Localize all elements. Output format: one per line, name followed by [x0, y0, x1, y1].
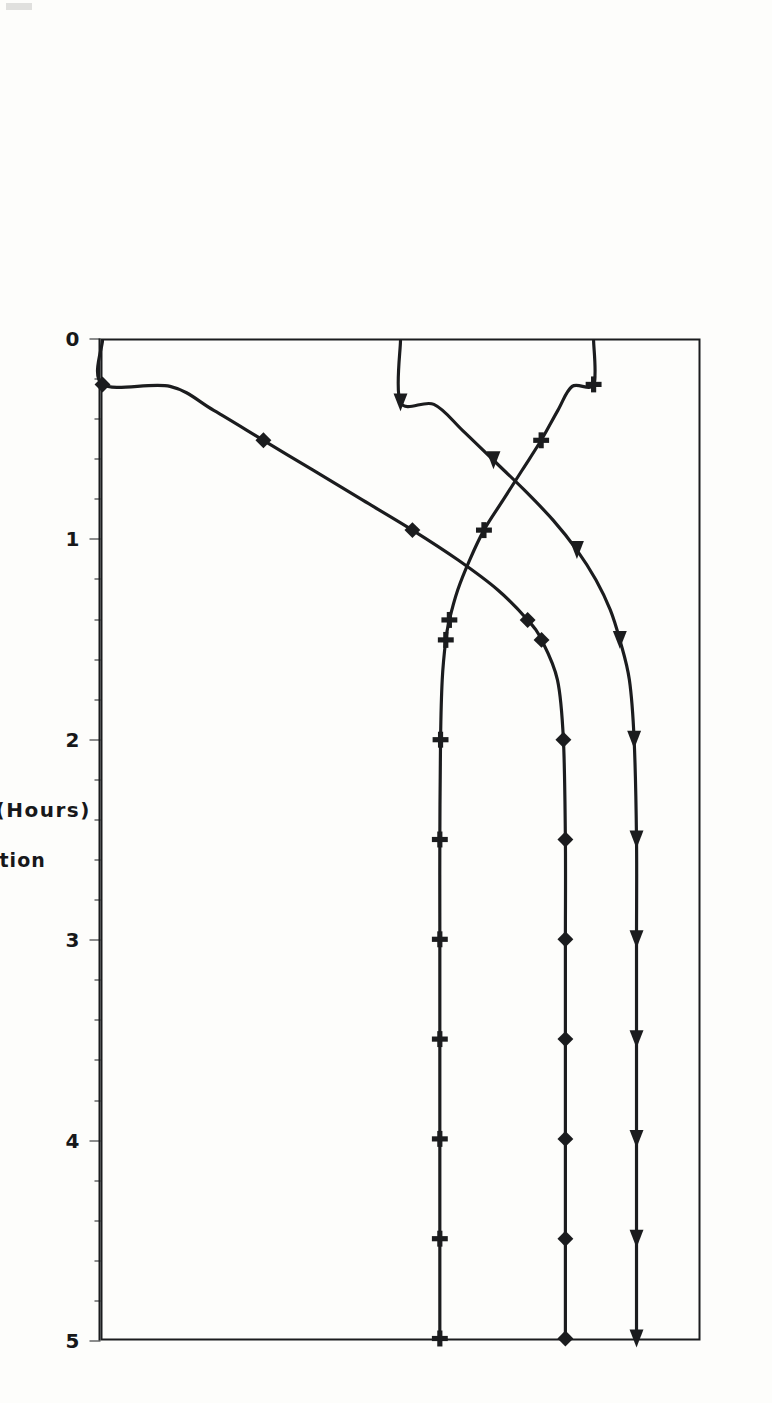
plus-marker — [431, 1330, 447, 1346]
time-tick-minor — [94, 619, 100, 620]
time-axis-title: Time (Hours) — [0, 797, 90, 821]
plus-marker — [585, 376, 601, 392]
time-tick-label: 1 — [65, 526, 79, 550]
time-tick-minor — [94, 1260, 100, 1261]
diamond-marker — [555, 731, 571, 747]
time-tick-minor — [94, 859, 100, 860]
time-tick-minor — [94, 659, 100, 660]
time-axis-line — [98, 338, 100, 1340]
time-tick-major — [89, 739, 100, 740]
time-tick-minor — [94, 1019, 100, 1020]
plus-marker — [441, 611, 457, 627]
plus-marker — [431, 831, 447, 847]
diamond-marker — [404, 522, 420, 538]
plus-marker — [431, 931, 447, 947]
diamond-marker — [557, 1230, 573, 1246]
time-tick-major — [89, 1340, 100, 1341]
time-tick-label: 3 — [65, 927, 79, 951]
triangle-marker — [627, 730, 641, 748]
scan-smudge — [6, 3, 32, 10]
plot-area — [100, 338, 700, 1340]
diamond-marker — [557, 931, 573, 947]
time-tick-minor — [94, 418, 100, 419]
time-tick-major — [89, 538, 100, 539]
diamond-marker — [557, 1130, 573, 1146]
plus-marker — [432, 731, 448, 747]
time-tick-major — [89, 1140, 100, 1141]
time-tick-minor — [94, 979, 100, 980]
plus-marker — [431, 1031, 447, 1047]
time-tick-minor — [94, 1180, 100, 1181]
diamond-marker — [533, 631, 549, 647]
time-tick-label: 4 — [65, 1128, 79, 1152]
time-tick-minor — [94, 699, 100, 700]
time-tick-minor — [94, 498, 100, 499]
diamond-marker — [557, 1330, 573, 1346]
time-tick-minor — [94, 458, 100, 459]
time-tick-label: 2 — [65, 727, 79, 751]
curves-svg — [102, 340, 698, 1338]
triangle-marker — [393, 393, 407, 411]
diamond-marker — [255, 432, 271, 448]
plus-marker — [431, 1130, 447, 1146]
time-tick-label: 5 — [65, 1328, 79, 1352]
time-tick-minor — [94, 1300, 100, 1301]
plus-marker — [437, 631, 453, 647]
triangle-marker — [629, 1030, 643, 1048]
triangle-marker — [629, 830, 643, 848]
triangle-marker — [629, 930, 643, 948]
triangle-marker — [629, 1129, 643, 1147]
time-tick-minor — [94, 1059, 100, 1060]
time-tick-minor — [94, 1220, 100, 1221]
series-line-oxylene — [97, 340, 565, 1338]
time-tick-minor — [94, 1100, 100, 1101]
time-tick-minor — [94, 779, 100, 780]
time-tick-label: 0 — [65, 326, 79, 350]
plus-marker — [431, 1230, 447, 1246]
time-tick-minor — [94, 378, 100, 379]
triangle-marker — [612, 630, 626, 648]
time-tick-minor — [94, 819, 100, 820]
time-tick-minor — [94, 899, 100, 900]
time-tick-major — [89, 338, 100, 339]
rotated-figure: Time (Hours) 960955950945940935X10-3+BEN… — [0, 0, 772, 1403]
benzene-legend: +BENZENE Fraction — [0, 847, 45, 872]
triangle-marker — [629, 1329, 643, 1347]
triangle-marker — [629, 1229, 643, 1247]
diamond-marker — [557, 831, 573, 847]
diamond-marker — [557, 1031, 573, 1047]
time-tick-major — [89, 939, 100, 940]
time-tick-minor — [94, 578, 100, 579]
benzene-legend-label: BENZENE Fraction — [0, 848, 45, 870]
